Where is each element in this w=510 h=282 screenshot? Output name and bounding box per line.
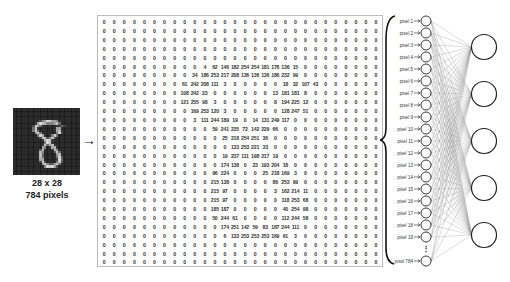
hidden-node-1 [472,35,497,60]
pixel-value-cell: 59 [210,125,220,134]
arrow-right-icon [414,200,420,203]
pixel-value-cell: 0 [99,250,109,259]
pixel-value-cell: 0 [310,250,320,259]
input-pixel-11-label: pixel 11 [398,139,414,144]
pixel-value-cell: 0 [331,80,341,89]
pixel-value-cell: 0 [341,89,351,98]
pixel-value-cell: 0 [159,152,169,161]
pixel-value-cell: 0 [310,196,320,205]
pixel-value-cell: 0 [180,45,190,54]
pixel-value-cell: 0 [300,232,310,241]
pixel-value-cell: 169 [280,169,290,178]
pixel-value-cell: 0 [341,27,351,36]
pixel-value-cell: 0 [149,63,159,72]
pixel-value-cell: 0 [331,107,341,116]
pixel-value-cell: 0 [331,161,341,170]
pixel-value-cell: 0 [250,178,260,187]
pixel-value-cell: 0 [109,98,119,107]
pixel-value-cell: 99 [290,71,300,80]
pixel-value-cell: 23 [250,161,260,170]
pixel-value-cell: 0 [129,143,139,152]
pixel-value-cell: 0 [169,161,179,170]
pixel-value-cell: 0 [351,54,361,63]
pixel-value-cell: 0 [169,134,179,143]
pixel-value-cell: 0 [169,63,179,72]
pixel-value-cell: 61 [280,232,290,241]
pixel [78,173,80,175]
pixel-value-cell: 0 [331,214,341,223]
pixel-value-cell: 0 [149,241,159,250]
pixel-value-cell: 0 [169,241,179,250]
input-pixel-13-node [421,160,431,170]
pixel-value-cell: 0 [310,223,320,232]
pixel-value-cell: 0 [321,134,331,143]
pixel-value-cell: 0 [109,232,119,241]
input-pixel-6-label: pixel 6 [400,79,414,84]
input-pixel-5-node [421,64,431,74]
pixel-value-cell: 0 [129,63,139,72]
connection-line [431,33,472,47]
pixel-value-cell: 0 [109,258,119,267]
pixel-value-cell: 0 [180,107,190,116]
pixel-value-cell: 0 [300,71,310,80]
pixel-value-cell: 136 [240,71,250,80]
pixel-value-cell: 0 [200,241,210,250]
pixel-value-cell: 0 [341,36,351,45]
pixel-value-cell: 0 [351,36,361,45]
pixel-value-cell: 0 [270,214,280,223]
pixel-value-cell: 0 [361,63,371,72]
pixel-value-cell: 0 [99,98,109,107]
pixel-value-cell: 0 [129,54,139,63]
pixel-value-cell: 0 [240,241,250,250]
pixel-value-cell: 0 [180,27,190,36]
pixel-value-cell: 0 [139,107,149,116]
pixel-value-cell: 0 [169,196,179,205]
pixel-value-cell: 0 [190,36,200,45]
pixel-value-cell: 0 [220,89,230,98]
mnist-digit-image [13,108,80,175]
pixel-value-cell: 0 [139,223,149,232]
pixel-value-cell: 0 [280,27,290,36]
pixel-value-cell: 0 [270,196,280,205]
pixel-value-cell: 0 [180,232,190,241]
pixel-value-cell: 0 [270,258,280,267]
pixel-value-cell: 0 [341,196,351,205]
pixel-value-cell: 0 [109,214,119,223]
pixel-value-cell: 0 [109,45,119,54]
pixel-value-cell: 0 [361,98,371,107]
pixel-value-cell: 0 [200,196,210,205]
pixel-value-cell: 0 [99,223,109,232]
pixel-value-cell: 61 [230,214,240,223]
pixel-value-cell: 108 [180,89,190,98]
pixel-value-cell: 0 [361,45,371,54]
pixel-value-cell: 0 [200,205,210,214]
pixel-value-cell: 0 [119,143,129,152]
pixel-value-cell: 0 [341,71,351,80]
pixel-value-cell: 0 [129,89,139,98]
pixel-value-cell: 0 [300,169,310,178]
pixel-value-cell: 0 [109,152,119,161]
pixel-value-cell: 0 [351,178,361,187]
pixel-value-cell: 0 [331,45,341,54]
pixel-value-cell: 0 [290,45,300,54]
pixel-value-cell: 0 [321,107,331,116]
pixel-value-cell: 62 [210,63,220,72]
pixel-value-cell: 131 [260,116,270,125]
pixel-value-cell: 0 [129,187,139,196]
pixel-value-cell: 0 [159,178,169,187]
input-pixel-12-label: pixel 12 [397,151,413,156]
pixel-value-cell: 0 [149,45,159,54]
pixel-value-cell: 0 [331,71,341,80]
pixel-value-cell: 0 [180,125,190,134]
pixel-value-cell: 0 [240,116,250,125]
pixel-value-cell: 204 [270,161,280,170]
pixel-value-cell: 0 [290,143,300,152]
pixel-value-cell: 0 [129,125,139,134]
pixel-value-cell: 4 [200,63,210,72]
pixel-value-cell: 0 [149,18,159,27]
pixel-value-cell: 3 [290,232,300,241]
input-pixel-17-label: pixel 17 [397,211,413,216]
pixel-value-cell: 0 [220,98,230,107]
pixel-value-cell: 0 [361,80,371,89]
pixel-value-cell: 0 [210,27,220,36]
